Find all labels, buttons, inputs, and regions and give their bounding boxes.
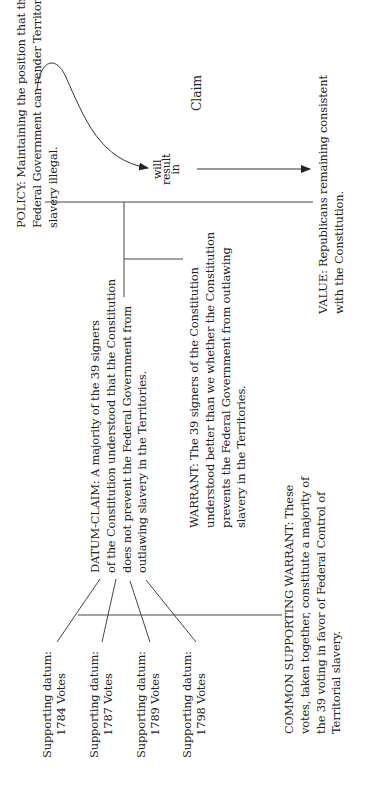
policy-line: POLICY: Maintaining the position that th… [14,0,30,228]
value-line: VALUE: Republicans remaining consistent [316,75,332,314]
warrant-line: understood better than we whether the Co… [203,232,219,528]
result-connector-label: will result in [153,154,180,185]
supporting-datum-votes: 1787 Votes [101,651,115,758]
common-warrant-line: COMMON SUPPORTING WARRANT: These [282,477,298,734]
claim-label: Claim [189,75,205,111]
datum-claim-text: DATUM-CLAIM: A majority of the 39 signer… [88,279,151,573]
supporting-datum-1784: Supporting datum: 1784 Votes [40,651,68,758]
supporting-datum-votes: 1784 Votes [54,651,68,758]
policy-text: POLICY: Maintaining the position that th… [14,0,61,228]
supporting-datum-label: Supporting datum: [134,651,148,758]
supporting-datum-label: Supporting datum: [180,651,194,758]
value-text: VALUE: Republicans remaining consistent … [316,75,348,314]
supporting-datum-1787: Supporting datum: 1787 Votes [87,651,115,758]
datum-claim-line: DATUM-CLAIM: A majority of the 39 signer… [88,279,104,573]
warrant-line: WARRANT: The 39 signers of the Constitut… [187,232,203,528]
supporting-datum-votes: 1789 Votes [148,651,162,758]
policy-line: Federal Government can render Territoria… [30,0,46,228]
warrant-line: prevents the Federal Government from out… [219,232,235,528]
datum-claim-line: outlawing slavery in the Territories. [135,279,151,573]
value-line: with the Constitution. [332,75,348,314]
supporting-datum-1798: Supporting datum: 1798 Votes [180,651,208,758]
claim-text: Claim [189,75,205,111]
common-warrant-line: votes, taken together, constitute a majo… [298,477,314,734]
datum-claim-line: of the Constitution understood that the … [104,279,120,573]
supporting-datum-label: Supporting datum: [40,651,54,758]
supporting-datum-label: Supporting datum: [87,651,101,758]
datum-claim-line: does not prevent the Federal Government … [120,279,136,573]
common-warrant-line: the 39 voting in favor of Federal Contro… [314,477,330,734]
policy-line: slavery illegal. [46,0,62,228]
warrant-text: WARRANT: The 39 signers of the Constitut… [187,232,250,528]
common-warrant-text: COMMON SUPPORTING WARRANT: These votes, … [282,477,345,734]
warrant-line: slavery in the Territories. [234,232,250,528]
supporting-datum-votes: 1798 Votes [194,651,208,758]
supporting-datum-1789: Supporting datum: 1789 Votes [134,651,162,758]
common-warrant-line: Territorial slavery. [329,477,345,734]
